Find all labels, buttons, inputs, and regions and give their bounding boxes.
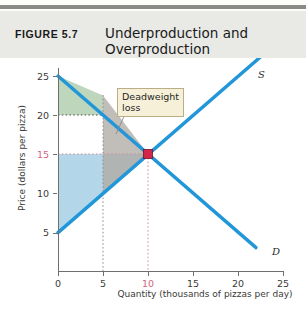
y-tick-20 [53,115,57,116]
y-tick-10 [53,193,57,194]
demand-curve-label: D [272,246,280,257]
x-tick-0 [58,272,59,276]
x-axis-title: Quantity (thousands of pizzas per day) [110,289,300,299]
figure-container: FIGURE 5.7 Underproduction and Overprodu… [0,0,306,309]
deadweight-loss-callout-line2: loss [122,102,179,113]
x-tick-label-0: 0 [48,278,68,289]
x-tick-label-5: 5 [93,278,113,289]
x-tick-5 [103,272,104,276]
y-tick-label-10: 10 [27,188,49,199]
supply-curve [58,58,265,233]
y-tick-25 [53,76,57,77]
equilibrium-marker [144,150,153,159]
x-tick-25 [283,272,284,276]
deadweight-loss-callout: Deadweight loss [117,88,184,117]
figure-title: Underproduction and Overproduction [105,25,300,57]
deadweight-loss-callout-line1: Deadweight [122,91,179,102]
top-rule-divider [0,5,306,9]
x-tick-15 [193,272,194,276]
y-tick-15 [53,154,57,155]
chart-plot-area: 0 5 10 15 20 25 5 10 15 20 25 Quantity (… [0,58,306,309]
x-tick-label-15: 15 [183,278,203,289]
x-tick-label-25: 25 [273,278,293,289]
y-tick-label-15: 15 [27,149,49,160]
y-axis-line [58,68,59,272]
x-tick-20 [238,272,239,276]
supply-curve-label: S [258,69,265,80]
y-tick-5 [53,233,57,234]
y-tick-label-25: 25 [27,71,49,82]
x-tick-label-20: 20 [228,278,248,289]
y-tick-label-5: 5 [27,227,49,238]
x-axis-line [58,271,284,272]
x-tick-label-10: 10 [138,278,158,289]
figure-number-label: FIGURE 5.7 [15,28,78,40]
y-tick-label-20: 20 [27,110,49,121]
y-axis-title: Price (dollars per pizza) [17,88,27,228]
figure-header-band: FIGURE 5.7 Underproduction and Overprodu… [0,11,306,58]
x-tick-10 [148,272,149,276]
